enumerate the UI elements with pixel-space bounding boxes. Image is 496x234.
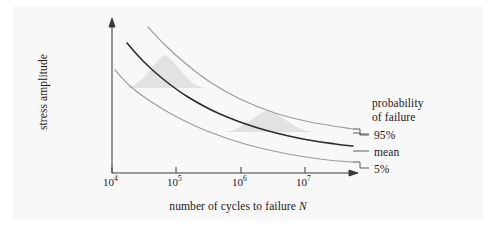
legend-item-5-percent: 5% [374, 163, 390, 175]
legend-item-mean: mean [374, 146, 399, 158]
tick-mantissa: 10 [167, 176, 178, 188]
sn-curves-group [115, 27, 353, 162]
y-axis-arrowhead [109, 18, 115, 27]
x-tick-label-10e5: 105 [167, 176, 182, 188]
legend-title-line1: probability [372, 97, 424, 111]
distribution-shape-low-cycle [124, 55, 207, 88]
legend-title-line2: of failure [372, 111, 424, 125]
x-axis-title-text: number of cycles to failure [169, 200, 299, 212]
fatigue-sn-chart-figure: stress amplitude number of cycles to fai… [0, 0, 496, 234]
legend-title: probability of failure [372, 97, 424, 124]
x-tick-label-10e6: 106 [232, 176, 247, 188]
y-axis-title: stress amplitude [37, 27, 49, 157]
tick-exponent: 5 [178, 174, 182, 183]
legend-leader-lines-group [353, 129, 369, 168]
tick-exponent: 6 [243, 174, 247, 183]
tick-exponent: 4 [114, 174, 118, 183]
leader-line-5-percent [353, 162, 369, 168]
tick-mantissa: 10 [296, 176, 307, 188]
distribution-shapes-group [124, 55, 316, 132]
x-axis-title-symbol: N [299, 200, 307, 212]
tick-mantissa: 10 [103, 176, 114, 188]
x-axis-title: number of cycles to failure N [128, 200, 348, 212]
x-tick-label-10e7: 107 [296, 176, 311, 188]
x-axis-ticks-group [112, 167, 305, 173]
y-axis-title-text: stress amplitude [37, 54, 49, 130]
x-axis-arrowhead [349, 170, 358, 176]
tick-mantissa: 10 [232, 176, 243, 188]
tick-exponent: 7 [307, 174, 311, 183]
axis-lines-group [109, 18, 358, 176]
x-tick-label-10e4: 104 [103, 176, 118, 188]
legend-item-95-percent: 95% [374, 129, 395, 141]
